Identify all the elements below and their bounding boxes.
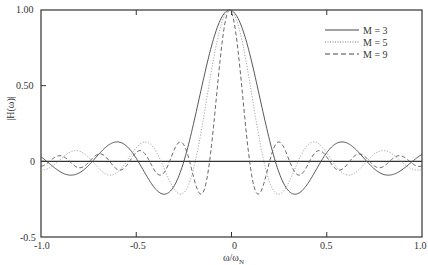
dotted-line-icon [325, 39, 359, 45]
legend-item-m5: M = 5 [325, 36, 388, 48]
x-tick-05: 0.5 [320, 240, 333, 251]
x-tick-neg1: -1.0 [34, 240, 50, 251]
solid-line-icon [325, 27, 359, 33]
y-tick-05: 0.50 [16, 80, 34, 91]
x-tick-1: 1.0 [414, 240, 427, 251]
x-tick-neg05: -0.5 [130, 240, 146, 251]
y-axis-label: |H(ω)| [5, 96, 16, 120]
dashed-line-icon [325, 51, 359, 57]
legend: M = 3 M = 5 M = 9 [325, 24, 388, 60]
x-axis-label: ω/ωN [223, 252, 244, 265]
y-tick-0: 0 [30, 156, 35, 167]
y-tick-1: 1.00 [16, 4, 34, 15]
legend-item-m3: M = 3 [325, 24, 388, 36]
legend-item-m9: M = 9 [325, 48, 388, 60]
x-tick-0: 0 [232, 240, 237, 251]
